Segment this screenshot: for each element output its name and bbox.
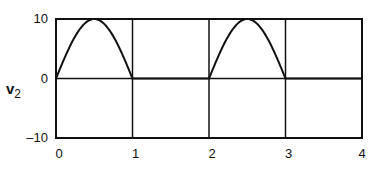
y-tick-label: 10 — [34, 11, 48, 26]
y-axis-label: v2 — [6, 80, 21, 101]
y-tick-label: 0 — [41, 71, 48, 86]
x-tick-label: 3 — [285, 146, 292, 161]
x-tick-labels: 01234 — [55, 146, 365, 161]
y-tick-label: –10 — [26, 130, 48, 145]
y-axis-label-subscript: 2 — [14, 87, 21, 101]
x-tick-label: 0 — [55, 146, 62, 161]
x-tick-label: 1 — [132, 146, 139, 161]
x-tick-label: 2 — [208, 146, 215, 161]
chart-plot: 01234 100–10 — [0, 0, 371, 171]
y-tick-labels: 100–10 — [26, 11, 48, 145]
x-tick-label: 4 — [358, 146, 365, 161]
